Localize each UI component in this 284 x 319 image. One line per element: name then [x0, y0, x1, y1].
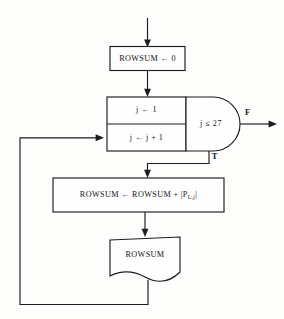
node-init-label: ROWSUM ← 0 [119, 54, 176, 63]
node-accumulate-label: ROWSUM ← ROWSUM + |PL,j| [80, 190, 197, 200]
entry-arrow [144, 18, 151, 48]
flowchart-svg: ROWSUM ← 0 j ← 1 j ← j + 1 j ≤ 27 F [0, 0, 284, 319]
node-output: ROWSUM [110, 237, 180, 281]
loop-increment-cell-label: j ← j + 1 [129, 133, 164, 142]
node-condition-label: j ≤ 27 [199, 119, 222, 128]
edge-accumulate-to-output [142, 212, 149, 237]
true-branch-label: T [212, 152, 218, 161]
loop-init-cell-label: j ← 1 [135, 105, 157, 114]
node-accumulate: ROWSUM ← ROWSUM + |PL,j| [53, 178, 224, 212]
node-accumulate-label-prefix: ROWSUM ← ROWSUM + |P [80, 190, 188, 199]
edge-feedback-loop [20, 134, 148, 304]
node-accumulate-label-suffix: | [195, 190, 197, 199]
edge-true-branch: T [144, 151, 218, 178]
flowchart-canvas: ROWSUM ← 0 j ← 1 j ← j + 1 j ≤ 27 F [0, 0, 284, 319]
node-condition: j ≤ 27 [186, 97, 240, 151]
node-output-label: ROWSUM [126, 250, 165, 259]
node-accumulate-label-subscript: L,j [188, 194, 196, 200]
loop-control-block: j ← 1 j ← j + 1 [107, 97, 186, 151]
edge-init-to-loop [144, 71, 151, 98]
false-branch-label: F [245, 108, 250, 117]
edge-false-branch: F [240, 108, 277, 128]
node-init: ROWSUM ← 0 [110, 47, 185, 71]
